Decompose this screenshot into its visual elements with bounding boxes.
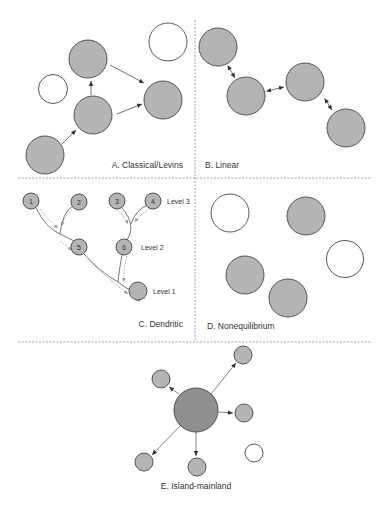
level-1-label: Level 1: [153, 288, 176, 295]
panel-e-label: E. Island-mainland: [161, 481, 232, 491]
arrow: [211, 363, 236, 394]
island: [188, 458, 206, 476]
empty-patch: [149, 23, 187, 61]
bidirectional-arrow: [325, 99, 332, 110]
occupied-patch: [287, 197, 325, 235]
arrow: [110, 65, 144, 83]
panel-c-dendritic: 1 2 3 4 5 6 Level 3 Level 2 Level 1: [23, 193, 190, 300]
panel-e-island-mainland: [135, 346, 263, 476]
panel-a-classical-levins: [26, 23, 187, 174]
node-4-label: 4: [151, 198, 155, 205]
arrow: [169, 387, 179, 394]
island: [152, 370, 170, 388]
occupied-patch: [26, 136, 64, 174]
occupied-patch: [69, 40, 107, 78]
node-2-label: 2: [77, 199, 81, 206]
island: [235, 404, 253, 422]
node-level-1: [129, 282, 147, 300]
empty-patch: [39, 75, 68, 104]
bidirectional-arrow: [228, 66, 235, 78]
island: [135, 453, 153, 471]
node-1-label: 1: [29, 198, 33, 205]
mainland: [174, 388, 218, 432]
panel-b-label: B. Linear: [205, 160, 239, 170]
island: [234, 346, 252, 364]
arrow: [152, 426, 180, 455]
metapopulation-models-diagram: A. Classical/Levins B. Linear: [0, 0, 387, 511]
occupied-patch: [74, 96, 112, 134]
empty-island: [245, 444, 263, 462]
level-3-label: Level 3: [167, 198, 190, 205]
arrow: [117, 104, 142, 114]
panel-d-nonequilibrium: [211, 194, 364, 317]
occupied-patch: [199, 28, 237, 66]
arrow: [62, 130, 76, 144]
bidirectional-arrow: [267, 87, 284, 91]
node-3-label: 3: [115, 198, 119, 205]
empty-patch: [211, 194, 249, 232]
panel-a-label: A. Classical/Levins: [112, 160, 183, 170]
panel-b-linear: [199, 28, 365, 147]
panel-c-label: C. Dendritic: [139, 319, 184, 329]
occupied-patch: [327, 109, 365, 147]
node-6-label: 6: [122, 244, 126, 251]
occupied-patch: [286, 63, 324, 101]
occupied-patch: [227, 77, 265, 115]
node-5-label: 5: [77, 244, 81, 251]
occupied-patch: [269, 279, 307, 317]
occupied-patch: [226, 256, 264, 294]
panel-d-label: D. Nonequilibrium: [207, 321, 275, 331]
level-2-label: Level 2: [141, 244, 164, 251]
empty-patch: [327, 241, 364, 278]
occupied-patch: [144, 81, 182, 119]
arrow: [218, 412, 233, 413]
